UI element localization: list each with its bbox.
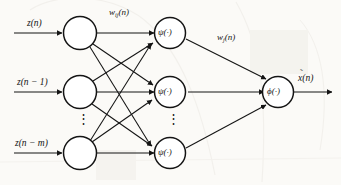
weight-arg-1: (n) [118,7,129,17]
hidden-node-label-2: ψ(·) [158,87,172,96]
edge-i1-h3 [90,47,151,146]
input-label-2: z(n − 1) [17,78,48,88]
input-label-3: z(n − m) [15,139,48,149]
output-arg: (n) [302,73,313,83]
neural-network-diagram: z(n) z(n − 1) z(n − m) wij(n) wj(n) ψ(·)… [0,0,341,185]
hidden-node-label-1: ψ(·) [158,28,172,37]
input-layer-ellipsis: ⋮ [77,112,90,125]
output-node-label: ϕ(·) [267,87,280,96]
hidden-layer-ellipsis: ⋮ [167,112,180,125]
edge-h3-out [186,105,266,148]
edge-i2-h3 [92,104,152,146]
input-node-1 [64,17,97,50]
input-arrows [14,33,62,153]
edge-i3-h2 [92,100,152,142]
input-to-hidden-connections [90,33,154,153]
input-label-1: z(n) [27,19,42,29]
output-label: ̃x(n) [298,74,313,84]
input-node-2 [64,76,97,109]
edge-i1-h2 [93,44,153,85]
input-nodes [64,17,97,170]
output-base-wrap: ̃x [298,74,302,84]
weight-label-first-layer: wij(n) [109,8,129,18]
output-base: x [298,73,302,83]
hidden-node-label-3: ψ(·) [158,148,172,157]
input-node-3 [64,137,97,170]
edge-i2-h1 [93,43,153,81]
weight-label-second-layer: wj(n) [217,33,235,43]
weight-arg-2: (n) [225,32,236,42]
